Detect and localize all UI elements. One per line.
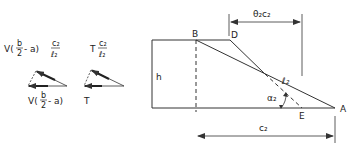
label-2-den: 2 xyxy=(17,49,22,58)
diagram-canvas: V( b 2 - a) c₂ ℓ₂ V( b 2 - a) T c₂ ℓ₂ T xyxy=(0,0,363,154)
label-b-num: b xyxy=(17,39,22,48)
point-b: B xyxy=(192,29,198,39)
vector-triangle-1: V( b 2 - a) c₂ ℓ₂ V( b 2 - a) xyxy=(4,39,67,110)
point-e: E xyxy=(299,111,305,121)
label-bottom-b: b xyxy=(41,91,46,100)
outline xyxy=(152,40,335,108)
label-t-top: T xyxy=(89,44,96,54)
label-c2-num: c₂ xyxy=(52,39,60,48)
bottom-dimension-label: c₂ xyxy=(259,123,268,133)
label-bottom-minus-a: - a) xyxy=(48,96,63,106)
length-label: ℓ₂ xyxy=(281,76,290,86)
label-v-prefix: V( xyxy=(4,44,14,54)
point-d: D xyxy=(231,30,238,40)
label-l2-den: ℓ₂ xyxy=(50,50,58,59)
top-dimension-label: θ₂c₂ xyxy=(253,9,271,19)
label-t-l2: ℓ₂ xyxy=(98,50,106,59)
label-minus-a: - a) xyxy=(24,44,39,54)
label-bottom-v: V( xyxy=(28,96,38,106)
vector-triangle-2: T c₂ ℓ₂ T xyxy=(83,39,124,106)
vector-arrow-upper xyxy=(37,72,55,81)
label-t-c2: c₂ xyxy=(99,39,107,48)
point-a: A xyxy=(340,104,347,114)
line-d-slope xyxy=(230,40,265,74)
main-wedge-diagram: B D A E h ℓ₂ α₂ θ₂c₂ c₂ xyxy=(152,9,347,143)
label-bottom-2: 2 xyxy=(41,101,46,110)
angle-label: α₂ xyxy=(267,93,277,103)
label-bottom-t: T xyxy=(83,96,90,106)
vector-arrow-upper-2 xyxy=(92,71,109,80)
height-label: h xyxy=(156,72,162,82)
